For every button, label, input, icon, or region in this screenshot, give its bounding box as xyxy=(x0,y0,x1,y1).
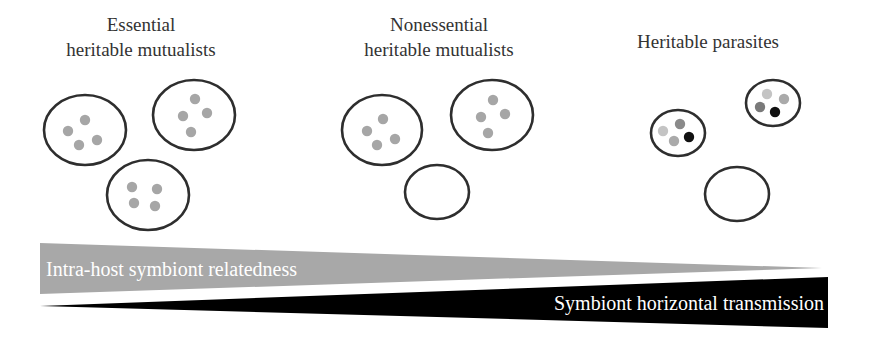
title-line: Heritable parasites xyxy=(610,29,806,54)
host-cell-empty xyxy=(705,167,769,221)
symbiont-dot xyxy=(669,136,679,146)
group-title-essential: Essential heritable mutualists xyxy=(42,12,240,62)
symbiont-dot xyxy=(684,132,694,142)
symbiont-dot xyxy=(476,112,486,122)
transmission-label: Symbiont horizontal transmission xyxy=(554,291,824,315)
host-outline xyxy=(405,165,469,219)
symbiont-dot xyxy=(129,198,139,208)
symbiont-dot xyxy=(372,140,382,150)
host-outline xyxy=(451,80,533,150)
symbiont-dot xyxy=(500,109,510,119)
symbiont-dot xyxy=(488,95,498,105)
group-parasites xyxy=(651,80,800,221)
symbiont-continuum-diagram: Essential heritable mutualists Nonessent… xyxy=(0,0,871,337)
host-cells-layer xyxy=(44,80,800,230)
symbiont-dot xyxy=(150,201,160,211)
title-line: heritable mutualists xyxy=(42,37,240,62)
group-essential xyxy=(44,80,235,230)
host-cell xyxy=(107,160,189,230)
host-outline xyxy=(44,95,126,165)
host-cell xyxy=(342,95,422,165)
symbiont-dot xyxy=(779,94,789,104)
group-title-nonessential: Nonessential heritable mutualists xyxy=(340,12,538,62)
title-line: Nonessential xyxy=(340,12,538,37)
host-cell xyxy=(651,110,705,156)
host-outline xyxy=(342,95,422,165)
symbiont-dot xyxy=(675,119,685,129)
symbiont-dot xyxy=(483,128,493,138)
symbiont-dot xyxy=(63,126,73,136)
host-outline xyxy=(153,80,235,150)
symbiont-dot xyxy=(74,140,84,150)
host-cell xyxy=(746,80,800,126)
host-cell xyxy=(153,80,235,150)
symbiont-dot xyxy=(186,127,196,137)
symbiont-dot xyxy=(658,126,668,136)
group-title-parasites: Heritable parasites xyxy=(610,29,806,54)
host-outline xyxy=(746,80,800,126)
host-outline xyxy=(705,167,769,221)
relatedness-label: Intra-host symbiont relatedness xyxy=(46,257,297,281)
title-line: heritable mutualists xyxy=(340,37,538,62)
host-cell xyxy=(451,80,533,150)
host-cell xyxy=(44,95,126,165)
symbiont-dot xyxy=(378,114,388,124)
symbiont-dot xyxy=(770,107,780,117)
host-outline xyxy=(107,160,189,230)
symbiont-dot xyxy=(362,126,372,136)
symbiont-dot xyxy=(190,94,200,104)
symbiont-dot xyxy=(127,182,137,192)
symbiont-dot xyxy=(92,135,102,145)
symbiont-dot xyxy=(762,89,772,99)
symbiont-dot xyxy=(80,115,90,125)
symbiont-dot xyxy=(390,134,400,144)
host-cell-empty xyxy=(405,165,469,219)
title-line: Essential xyxy=(42,12,240,37)
symbiont-dot xyxy=(202,108,212,118)
symbiont-dot xyxy=(178,111,188,121)
symbiont-dot xyxy=(152,184,162,194)
group-nonessential xyxy=(342,80,533,219)
symbiont-dot xyxy=(755,102,765,112)
